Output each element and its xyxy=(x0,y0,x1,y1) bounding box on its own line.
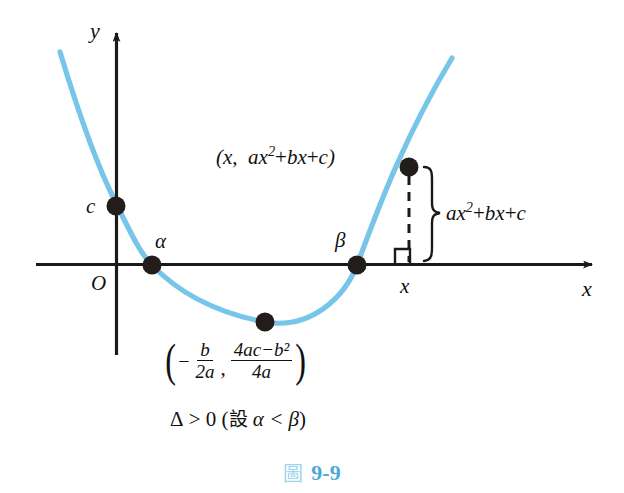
brace-exponent: 2 xyxy=(466,199,473,215)
brace-plus-2: + xyxy=(505,201,517,225)
vertex-open-paren: ( xyxy=(165,340,176,381)
coord-plus-1: + xyxy=(275,145,287,169)
discriminant-inequality: α < β xyxy=(253,407,299,431)
point-y-intercept xyxy=(107,197,126,216)
brace-a: a xyxy=(446,201,457,225)
coord-x2-base: x xyxy=(259,145,268,169)
brace-value-label: ax2+bx+c xyxy=(446,200,526,224)
graph-canvas xyxy=(0,0,624,493)
root-beta-label: β xyxy=(335,230,345,251)
brace-bx: bx xyxy=(485,201,505,225)
brace-x2-base: x xyxy=(457,201,466,225)
vertex-comma: , xyxy=(221,358,226,381)
origin-label: O xyxy=(91,273,106,294)
discriminant-delta: Δ xyxy=(170,407,184,431)
discriminant-cjk-word: 設 xyxy=(229,408,248,430)
figure-quadratic-graph: y x O c α β x (x, ax2+bx+c) ax2+bx+c ( −… xyxy=(0,0,624,493)
coord-plus-2: + xyxy=(307,145,319,169)
vertex-close-paren: ) xyxy=(296,340,307,381)
figure-caption: 圖9-9 xyxy=(0,458,624,487)
discriminant-relation: > 0 xyxy=(189,407,217,431)
point-vertex xyxy=(256,313,275,332)
discriminant-close-paren: ) xyxy=(299,407,306,431)
coord-c: c xyxy=(319,145,328,169)
point-root-alpha xyxy=(143,256,162,275)
discriminant-condition-label: Δ > 0 (設 α < β) xyxy=(170,409,306,430)
y-axis-label: y xyxy=(90,20,100,42)
vertex-minus: − xyxy=(178,351,189,371)
parabola-curve xyxy=(60,52,452,323)
discriminant-open-paren: ( xyxy=(222,407,229,431)
coord-a: a xyxy=(248,145,259,169)
vertex-coordinate-label: ( − b 2a , 4ac−b² 4a ) xyxy=(163,340,309,381)
coord-close-paren: ) xyxy=(328,145,335,169)
brace-plus-1: + xyxy=(473,201,485,225)
coord-bx: bx xyxy=(287,145,307,169)
foot-x-label: x xyxy=(400,276,409,297)
point-generic xyxy=(400,158,419,177)
coord-x: x xyxy=(223,145,232,169)
height-brace xyxy=(424,167,440,261)
coord-open-paren: ( xyxy=(216,145,223,169)
vertex-x-numerator: b xyxy=(197,340,213,361)
brace-c: c xyxy=(516,201,525,225)
coord-exponent: 2 xyxy=(268,143,275,159)
vertex-y-denominator: 4a xyxy=(249,361,274,381)
figure-marker-icon: 圖 xyxy=(283,462,303,486)
x-axis-label: x xyxy=(582,278,592,300)
point-root-beta xyxy=(348,256,367,275)
coord-comma: , xyxy=(232,145,237,169)
y-intercept-label: c xyxy=(86,196,95,217)
vertex-y-fraction: 4ac−b² 4a xyxy=(231,340,292,381)
vertex-x-fraction: b 2a xyxy=(193,340,218,381)
root-alpha-label: α xyxy=(155,231,166,252)
vertex-x-denominator: 2a xyxy=(193,361,218,381)
vertex-y-numerator: 4ac−b² xyxy=(231,340,292,361)
figure-number: 9-9 xyxy=(311,460,340,485)
point-coordinate-label: (x, ax2+bx+c) xyxy=(216,144,335,168)
